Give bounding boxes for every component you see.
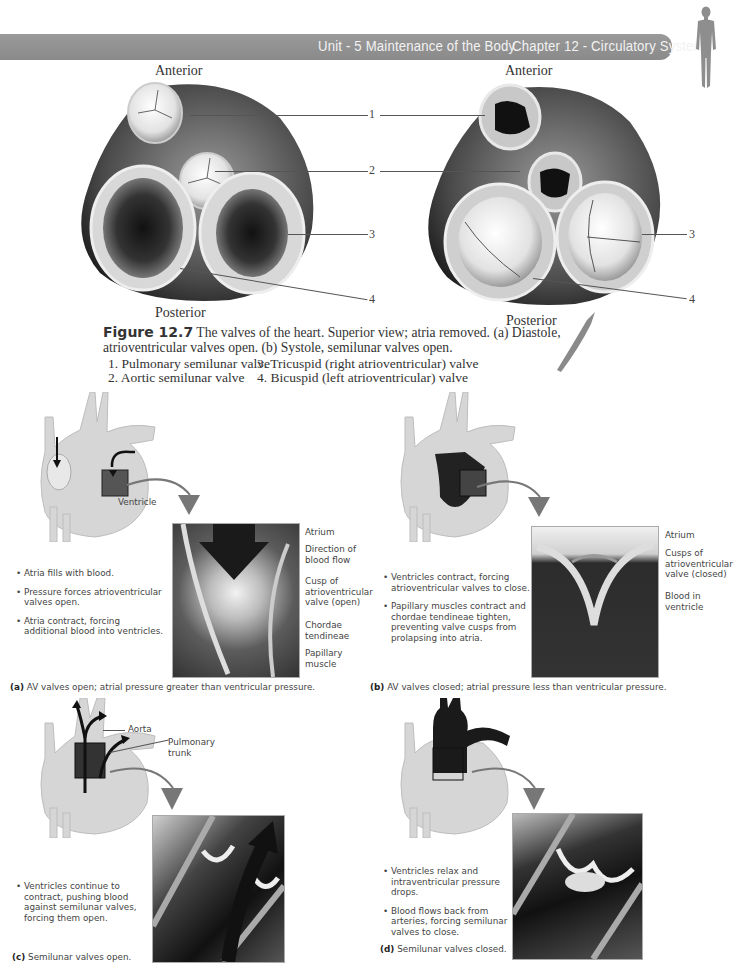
bullet-item: Atria contract, forcing additional blood… — [24, 616, 165, 637]
callout-line-2-right — [380, 171, 520, 172]
chapter-title: Chapter 12 - Circulatory System — [512, 37, 705, 55]
unit-title: Unit - 5 Maintenance of the Body — [318, 37, 515, 55]
callout-line-2-left — [215, 171, 368, 172]
av-valve-open-inset — [172, 523, 300, 678]
bullet-item: Blood flows back from arteries, forcing … — [391, 906, 512, 938]
callout-number-2: 2 — [369, 163, 375, 178]
bullet-item: Papillary muscles contract and chordae t… — [391, 601, 532, 643]
inset-b-label-atrium: Atrium — [665, 530, 695, 541]
callout-number-4-left: 4 — [369, 292, 375, 307]
panel-d-bullets: Ventricles relax and intraventricular pr… — [382, 866, 512, 945]
callout-number-3-left: 3 — [369, 227, 375, 242]
panel-c-bullets: Ventricles continue to contract, pushing… — [15, 881, 150, 931]
panel-b-bullets: Ventricles contract, forcing atrioventri… — [382, 572, 532, 651]
callout-number-4-right: 4 — [689, 292, 695, 307]
aorta-leader-line — [103, 730, 125, 731]
semilunar-open-inset — [152, 815, 285, 963]
inset-b-label-blood-ventricle: Blood in ventricle — [665, 591, 715, 612]
inset-b-label-cusps-closed: Cusps of atrioventricular valve (closed) — [665, 548, 735, 580]
inset-a-label-atrium: Atrium — [305, 527, 335, 538]
legend-item-1: 1. Pulmonary semilunar valve — [108, 357, 270, 371]
callout-line-3-right — [642, 234, 687, 235]
legend-item-3: 3. Tricuspid (right atrioventricular) va… — [257, 357, 479, 371]
figure-label: Figure 12.7 — [103, 324, 193, 340]
bullet-item: Pressure forces atrioventricular valves … — [24, 587, 165, 608]
bullet-item: Ventricles relax and intraventricular pr… — [391, 866, 512, 898]
curved-arrow-a — [125, 470, 205, 520]
heart-valves-diastole-illustration — [80, 78, 320, 303]
semilunar-closed-inset — [512, 813, 643, 960]
panel-a-caption: (a) AV valves open; atrial pressure grea… — [10, 682, 315, 692]
caption-line-1: The valves of the heart. Superior view; … — [193, 325, 560, 340]
caption-line-2: atrioventricular valves open. (b) Systol… — [103, 340, 563, 355]
av-valve-closed-inset — [531, 526, 659, 678]
decorative-brush-stroke — [555, 310, 600, 380]
anterior-label-right: Anterior — [505, 63, 552, 79]
callout-line-1-right — [380, 115, 485, 116]
anterior-label-left: Anterior — [155, 63, 202, 79]
inset-a-label-cusp-open: Cusp of atrioventricular valve (open) — [305, 576, 369, 608]
panel-c-caption: (c) Semilunar valves open. — [12, 952, 131, 962]
bullet-item: Ventricles continue to contract, pushing… — [24, 881, 150, 923]
callout-number-1: 1 — [369, 107, 375, 122]
posterior-label-left: Posterior — [155, 305, 206, 321]
inset-a-label-blood-flow: Direction of blood flow — [305, 544, 365, 565]
human-silhouette-icon — [690, 4, 722, 90]
callout-line-1-left — [190, 115, 368, 116]
curved-arrow-b — [475, 472, 555, 522]
bullet-item: Ventricles contract, forcing atrioventri… — [391, 572, 532, 593]
aorta-label: Aorta — [128, 724, 152, 735]
panel-d-caption: (d) Semilunar valves closed. — [380, 944, 507, 954]
figure-caption: Figure 12.7 The valves of the heart. Sup… — [103, 325, 563, 355]
legend-item-2: 2. Aortic semilunar valve — [108, 371, 244, 385]
panel-b-caption: (b) AV valves closed; atrial pressure le… — [370, 682, 667, 692]
callout-number-3-right: 3 — [689, 227, 695, 242]
callout-line-3-left — [288, 234, 368, 235]
legend-item-4: 4. Bicuspid (left atrioventricular) valv… — [257, 371, 468, 385]
curved-arrow-c — [108, 760, 188, 815]
curved-arrow-d — [470, 760, 550, 815]
inset-a-label-chordae: Chordae tendineae — [305, 620, 355, 641]
pulmonary-trunk-label: Pulmonary trunk — [168, 737, 218, 758]
bullet-item: Atria fills with blood. — [24, 568, 165, 579]
inset-a-label-papillary: Papillary muscle — [305, 648, 355, 669]
panel-a-bullets: Atria fills with blood. Pressure forces … — [15, 568, 165, 645]
